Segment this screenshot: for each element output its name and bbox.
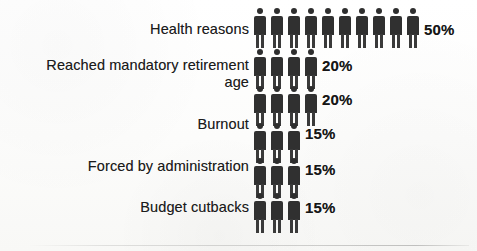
person-head — [291, 86, 297, 92]
person-head — [257, 193, 263, 199]
person-body — [322, 16, 334, 35]
person-head — [291, 8, 297, 14]
person-body — [288, 131, 300, 150]
person-leg-right — [261, 34, 264, 48]
person-leg-left — [375, 34, 378, 48]
person-head — [257, 49, 263, 55]
person-head — [291, 123, 297, 129]
person-icon — [252, 123, 269, 163]
person-body — [288, 166, 300, 185]
person-leg-left — [307, 34, 310, 48]
person-body — [254, 201, 266, 220]
pictogram-figure-strip — [252, 123, 303, 163]
person-icon — [286, 49, 303, 89]
person-head — [257, 158, 263, 164]
person-icon — [252, 49, 269, 89]
person-head — [274, 193, 280, 199]
person-body — [356, 16, 368, 35]
person-icon — [303, 8, 320, 48]
person-icon — [286, 86, 303, 126]
person-head — [342, 8, 348, 14]
person-icon — [303, 86, 320, 126]
person-icon — [320, 8, 337, 48]
person-leg-right — [295, 219, 298, 233]
person-body — [288, 201, 300, 220]
row-value-label: 15% — [305, 161, 336, 178]
person-head — [257, 123, 263, 129]
person-leg-right — [312, 34, 315, 48]
person-icon — [269, 193, 286, 233]
pictogram-chart: Health reasons50%Reached mandatory retir… — [0, 0, 477, 251]
person-body — [390, 16, 402, 35]
person-head — [274, 49, 280, 55]
person-body — [305, 16, 317, 35]
row-value-label: 20% — [322, 57, 353, 74]
pictogram-figure-strip — [252, 193, 303, 233]
bottom-scan-rule — [28, 245, 469, 246]
person-body — [271, 94, 283, 113]
person-body — [288, 57, 300, 76]
person-body — [271, 16, 283, 35]
person-head — [291, 49, 297, 55]
person-head — [274, 86, 280, 92]
row-label: Budget cutbacks — [140, 199, 249, 216]
person-icon — [405, 8, 422, 48]
person-body — [271, 131, 283, 150]
person-leg-left — [307, 112, 310, 126]
person-body — [254, 166, 266, 185]
person-body — [305, 94, 317, 113]
person-leg-right — [295, 34, 298, 48]
person-icon — [286, 123, 303, 163]
person-icon — [252, 158, 269, 198]
person-head — [359, 8, 365, 14]
person-body — [254, 94, 266, 113]
person-head — [291, 193, 297, 199]
person-body — [373, 16, 385, 35]
person-icon — [286, 158, 303, 198]
person-leg-left — [324, 34, 327, 48]
person-leg-left — [256, 34, 259, 48]
person-leg-right — [329, 34, 332, 48]
person-leg-right — [397, 34, 400, 48]
pictogram-figure-strip — [252, 49, 320, 89]
person-head — [308, 8, 314, 14]
person-body — [254, 57, 266, 76]
person-leg-left — [341, 34, 344, 48]
row-label: Health reasons — [150, 21, 249, 38]
person-body — [271, 201, 283, 220]
person-leg-left — [409, 34, 412, 48]
person-icon — [337, 8, 354, 48]
person-head — [393, 8, 399, 14]
person-body — [271, 57, 283, 76]
row-value-label: 15% — [305, 125, 336, 142]
person-icon — [354, 8, 371, 48]
person-head — [308, 86, 314, 92]
person-head — [308, 49, 314, 55]
person-leg-left — [392, 34, 395, 48]
person-leg-right — [278, 219, 281, 233]
person-icon — [388, 8, 405, 48]
person-icon — [269, 158, 286, 198]
pictogram-figure-strip — [252, 158, 303, 198]
person-icon — [269, 86, 286, 126]
person-leg-left — [290, 34, 293, 48]
row-label: Forced by administration — [88, 158, 249, 175]
row-label: Burnout — [198, 116, 250, 133]
person-leg-right — [312, 112, 315, 126]
person-icon — [286, 193, 303, 233]
person-body — [339, 16, 351, 35]
person-head — [274, 158, 280, 164]
pictogram-figure-strip — [252, 86, 320, 126]
person-icon — [371, 8, 388, 48]
person-leg-left — [290, 219, 293, 233]
row-value-label: 50% — [424, 21, 455, 38]
person-leg-left — [273, 219, 276, 233]
person-body — [288, 16, 300, 35]
person-icon — [252, 8, 269, 48]
person-body — [254, 16, 266, 35]
person-icon — [269, 123, 286, 163]
person-icon — [252, 193, 269, 233]
person-icon — [269, 49, 286, 89]
person-head — [257, 8, 263, 14]
row-value-label: 15% — [305, 199, 336, 216]
